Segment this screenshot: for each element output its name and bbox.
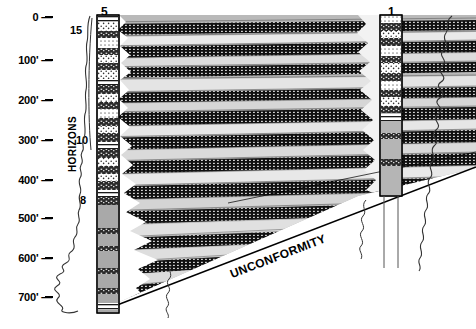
well-track-5[interactable]: [97, 15, 119, 313]
horizon-bracket: [89, 18, 92, 150]
well-track-1[interactable]: [380, 15, 402, 268]
well-log-curve-5: [55, 16, 90, 313]
seismic-cross-section-figure: 0 — 100' — 200' — 300' — 400' — 500' — 6…: [0, 0, 476, 329]
cross-section-canvas: [0, 0, 476, 329]
depth-tick-marks: [45, 17, 53, 297]
